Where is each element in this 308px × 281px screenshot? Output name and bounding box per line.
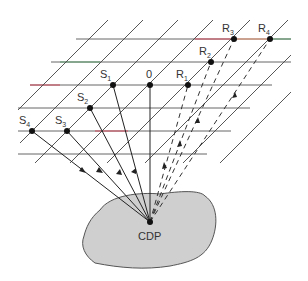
point-s4 [29, 128, 35, 134]
label-s3: S3 [55, 114, 66, 128]
diagram-canvas: S1 S2 S3 S4 0 R1 R2 R3 R4 CDP [0, 0, 308, 281]
point-cdp [147, 219, 153, 225]
point-s2 [87, 105, 93, 111]
label-origin: 0 [146, 68, 152, 80]
label-r2: R2 [199, 45, 211, 59]
diagonal-grid-lines [18, 20, 291, 163]
label-r4: R4 [258, 22, 270, 36]
point-s1 [110, 82, 116, 88]
point-0 [147, 82, 153, 88]
label-cdp: CDP [138, 230, 161, 242]
point-r3 [231, 36, 237, 42]
point-r1 [185, 82, 191, 88]
label-s1: S1 [100, 68, 111, 82]
label-s2: S2 [77, 91, 88, 105]
label-r1: R1 [176, 68, 188, 82]
point-s3 [64, 128, 70, 134]
point-r2 [208, 59, 214, 65]
label-r3: R3 [222, 22, 234, 36]
point-r4 [267, 36, 273, 42]
label-s4: S4 [19, 114, 30, 128]
cdp-diagram: S1 S2 S3 S4 0 R1 R2 R3 R4 CDP [0, 0, 308, 281]
